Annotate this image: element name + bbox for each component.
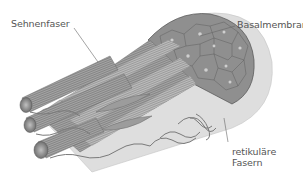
bundle-end-3 (34, 142, 48, 159)
label-basalmembran: Basalmembran (237, 19, 303, 30)
tendon-diagram: Sehnenfaser Basalmembran retikuläre Fase… (0, 0, 303, 175)
bundle-end-2 (24, 118, 36, 133)
label-retikulaere-fasern: retikuläre Fasern (232, 146, 276, 168)
label-retikulaere-line1: retikuläre (232, 146, 276, 157)
leader-sehnenfaser (74, 28, 98, 62)
bundle-end-1 (20, 98, 32, 113)
label-sehnenfaser: Sehnenfaser (11, 18, 70, 29)
label-retikulaere-line2: Fasern (232, 157, 276, 168)
